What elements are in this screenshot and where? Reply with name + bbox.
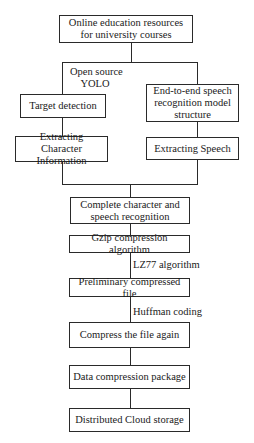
node-compress-again: Compress the file again (69, 322, 190, 348)
edge-label-huffman: Huffman coding (133, 306, 202, 318)
node-gzip: Gzip compression algorithm (69, 235, 190, 253)
connector-model-to-speech (197, 122, 198, 137)
connector-compress-to-package (130, 348, 131, 365)
node-complete-recognition: Complete character and speech recognitio… (70, 197, 190, 224)
connector-source-down (131, 43, 132, 62)
connector-speech-down (197, 160, 198, 184)
connector-preliminary-to-compress (130, 297, 131, 322)
flowchart-canvas: Online education resources for universit… (0, 0, 254, 443)
node-preliminary-file: Preliminary compressed file (69, 278, 190, 297)
node-cloud-storage: Distributed Cloud storage (69, 408, 190, 432)
connector-right-branch (197, 62, 198, 84)
node-data-package: Data compression package (69, 365, 190, 389)
connector-package-to-storage (130, 389, 131, 408)
node-source: Online education resources for universit… (59, 15, 193, 43)
connector-left-branch (62, 62, 63, 94)
node-extract-speech: Extracting Speech (146, 137, 239, 160)
node-target-detection: Target detection (20, 94, 106, 118)
connector-gzip-to-preliminary (130, 253, 131, 278)
node-speech-model: End-to-end speech recognition model stru… (146, 84, 239, 122)
edge-label-open-source: Open source (70, 66, 120, 78)
edge-label-yolo: YOLO (70, 78, 120, 90)
connector-branch-split (62, 62, 198, 63)
edge-label-lz77: LZ77 algorithm (133, 259, 200, 271)
node-extract-character: Extracting Character Information (15, 136, 108, 162)
connector-merge-down (130, 184, 131, 197)
